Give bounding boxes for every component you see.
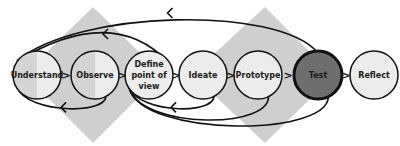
chevron-right-icon: >	[283, 69, 292, 82]
step-label: Ideate	[189, 71, 218, 80]
step-label: Define	[134, 60, 164, 69]
step-ideate: Ideate	[179, 51, 227, 99]
step-label: Prototype	[236, 71, 281, 80]
chevron-right-icon: >	[341, 69, 350, 82]
step-define: Definepoint ofview	[125, 51, 173, 99]
chevron-right-icon: >	[226, 69, 235, 82]
design-thinking-diagram: UnderstandObserveDefinepoint ofviewIdeat…	[0, 0, 400, 146]
step-test: Test	[294, 51, 342, 99]
step-prototype: Prototype	[234, 51, 282, 99]
chevron-right-icon: >	[117, 69, 126, 82]
step-label: Understand	[11, 71, 64, 80]
step-reflect: Reflect	[350, 51, 398, 99]
step-label: Observe	[76, 71, 114, 80]
step-label: Test	[309, 71, 328, 80]
arrow-left-icon	[168, 8, 173, 18]
step-observe: Observe	[71, 51, 119, 99]
arrow-left-icon	[171, 102, 176, 112]
chevron-right-icon: >	[171, 69, 180, 82]
step-label: Reflect	[358, 71, 390, 80]
step-label: point of	[131, 71, 167, 80]
step-label: view	[139, 82, 160, 91]
chevron-right-icon: >	[61, 69, 70, 82]
